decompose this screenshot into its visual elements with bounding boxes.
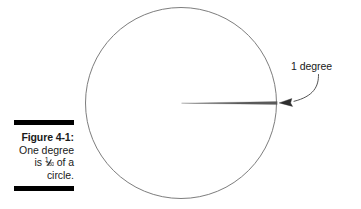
- caption-line-2: One degree: [14, 144, 74, 157]
- fraction-one-three-sixtieth: 1360: [45, 157, 54, 167]
- caption-line-4: circle.: [14, 169, 74, 182]
- caption-rule-bottom: [14, 186, 74, 191]
- caption-rule-top: [14, 120, 74, 125]
- caption-line-3-prefix: is: [34, 156, 44, 168]
- fraction-denominator: 360: [46, 162, 54, 167]
- figure-container: 1 degree Figure 4-1: One degree is 1360 …: [0, 0, 361, 209]
- one-degree-wedge: [182, 102, 278, 105]
- callout-label-text: 1 degree: [291, 60, 332, 73]
- callout-leader-line: [294, 75, 319, 102]
- figure-number-label: Figure 4-1:: [14, 131, 74, 144]
- figure-caption-block: Figure 4-1: One degree is 1360 of a circ…: [14, 120, 74, 191]
- caption-line-3: is 1360 of a: [14, 156, 74, 169]
- callout-arrowhead: [279, 99, 292, 107]
- caption-line-3-suffix: of a: [54, 156, 74, 168]
